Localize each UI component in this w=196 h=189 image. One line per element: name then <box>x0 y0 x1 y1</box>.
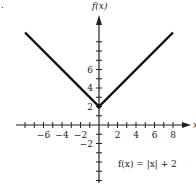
x-tick-label: −6 <box>37 130 51 140</box>
x-axis-label: x <box>193 120 196 130</box>
vertex-point <box>97 104 101 108</box>
tick-labels: −6−4−22468−2246 <box>37 65 176 149</box>
y-tick-label: −2 <box>80 139 93 149</box>
corner-dot: . <box>1 0 4 10</box>
function-label: f(x) = |x| + 2 <box>118 159 177 170</box>
x-tick-label: 4 <box>133 130 139 140</box>
y-tick-label: 4 <box>87 83 93 93</box>
chart: . −6−4−22468−2246 f(x) x f(x) = |x| + 2 <box>0 0 196 189</box>
x-tick-label: 8 <box>170 130 176 140</box>
x-tick-label: 2 <box>115 130 121 140</box>
x-tick-label: 6 <box>152 130 158 140</box>
y-tick-label: 2 <box>87 102 93 112</box>
y-axis-label: f(x) <box>91 1 108 11</box>
x-axis-arrow <box>182 122 191 128</box>
y-tick-label: 6 <box>87 65 93 75</box>
x-tick-label: −4 <box>55 130 69 140</box>
y-axis-arrow <box>96 15 102 25</box>
